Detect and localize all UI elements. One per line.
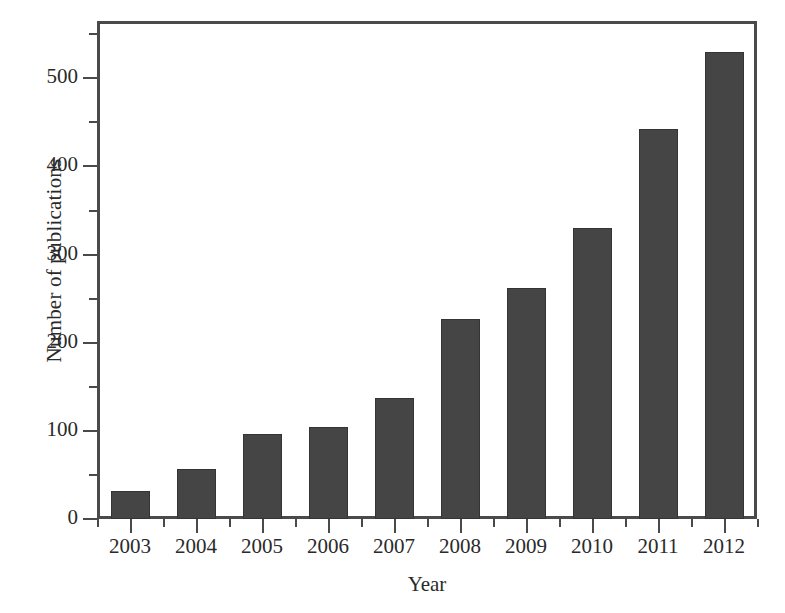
x-axis-minor-tick [97, 519, 99, 527]
x-axis-major-tick [130, 519, 132, 533]
x-axis-minor-tick [691, 519, 693, 527]
bar-2005 [243, 434, 282, 519]
x-axis-title: Year [97, 572, 757, 597]
x-axis-minor-tick [625, 519, 627, 527]
y-axis-minor-tick [89, 33, 98, 35]
y-axis-tick-label-group: 0100200300400500 [12, 0, 78, 613]
bar-2004 [177, 469, 216, 519]
x-axis-major-tick [658, 519, 660, 533]
x-axis-tick-label: 2012 [684, 534, 764, 559]
x-axis-minor-tick [493, 519, 495, 527]
y-axis-major-tick [83, 254, 98, 256]
y-axis-tick-label: 200 [18, 331, 78, 352]
bar-2008 [441, 319, 480, 519]
y-axis-minor-tick [89, 298, 98, 300]
y-axis-major-tick [83, 342, 98, 344]
bar-2012 [705, 52, 744, 519]
x-axis-major-tick [328, 519, 330, 533]
x-axis-minor-tick [757, 519, 759, 527]
y-axis-major-tick [83, 430, 98, 432]
x-axis-minor-tick [361, 519, 363, 527]
y-axis-minor-tick [89, 210, 98, 212]
bar-2010 [573, 228, 612, 519]
x-axis-major-tick [262, 519, 264, 533]
y-axis-major-tick [83, 165, 98, 167]
y-axis-tick-label: 0 [18, 507, 78, 528]
publications-bar-chart: Number of publications 0100200300400500 … [0, 0, 785, 613]
x-axis-major-tick [196, 519, 198, 533]
x-axis-minor-tick [295, 519, 297, 527]
x-axis-major-tick [460, 519, 462, 533]
bar-2007 [375, 398, 414, 519]
x-axis-major-tick [592, 519, 594, 533]
y-axis-tick-label: 500 [18, 66, 78, 87]
y-axis-minor-tick [89, 386, 98, 388]
x-axis-major-tick [526, 519, 528, 533]
bar-2003 [111, 491, 150, 519]
y-axis-tick-label: 100 [18, 419, 78, 440]
bar-2009 [507, 288, 546, 519]
x-axis-major-tick [724, 519, 726, 533]
y-axis-tick-label: 400 [18, 154, 78, 175]
x-axis-minor-tick [163, 519, 165, 527]
bar-2006 [309, 427, 348, 519]
bar-2011 [639, 129, 678, 519]
y-axis-major-tick [83, 77, 98, 79]
x-axis-major-tick [394, 519, 396, 533]
y-axis-tick-label: 300 [18, 243, 78, 264]
y-axis-minor-tick [89, 121, 98, 123]
y-axis-minor-tick [89, 474, 98, 476]
x-axis-minor-tick [229, 519, 231, 527]
y-axis-major-tick [83, 518, 98, 520]
x-axis-minor-tick [559, 519, 561, 527]
x-axis-minor-tick [427, 519, 429, 527]
